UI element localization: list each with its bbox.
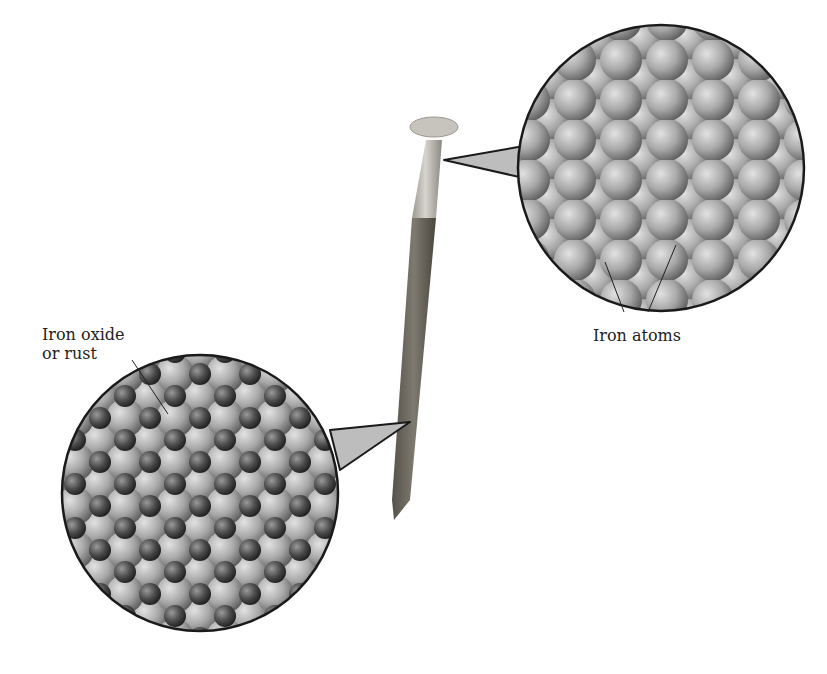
nail-head <box>410 117 458 137</box>
label-iron-oxide: Iron oxide or rust <box>42 325 124 363</box>
nail-shaft-clean <box>412 140 442 218</box>
iron-atoms-magnification <box>444 20 820 320</box>
callout-pointer-top <box>444 146 524 178</box>
label-iron-atoms: Iron atoms <box>593 326 681 345</box>
iron-oxide-magnification <box>60 350 410 635</box>
nail <box>392 117 458 520</box>
label-iron-oxide-line1: Iron oxide <box>42 325 124 344</box>
nail-shaft-rusted <box>392 218 436 520</box>
label-iron-oxide-line2: or rust <box>42 344 124 363</box>
